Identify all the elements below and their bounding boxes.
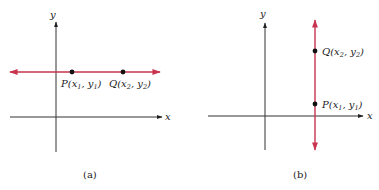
- caption-a: (a): [83, 169, 97, 180]
- y-axis-label: y: [49, 9, 56, 20]
- point-q: [313, 49, 318, 54]
- y-axis-label: y: [259, 8, 266, 19]
- point-p: [70, 70, 75, 75]
- x-axis-label: x: [367, 110, 373, 121]
- point-q: [121, 70, 126, 75]
- point-p-label: P(x1, y1): [321, 99, 363, 112]
- point-q-label: Q(x2, y2): [109, 78, 151, 91]
- point-q-label: Q(x2, y2): [322, 46, 364, 59]
- caption-b: (b): [293, 169, 307, 180]
- panel-b: y x Q(x2, y2) P(x1, y1) (b): [208, 8, 373, 180]
- point-p: [313, 102, 318, 107]
- figure: y x P(x1, y1) Q(x2, y2) (a) y x Q(x2, y2…: [0, 0, 379, 190]
- panel-a: y x P(x1, y1) Q(x2, y2) (a): [10, 9, 171, 180]
- x-axis-label: x: [165, 111, 171, 122]
- point-p-label: P(x1, y1): [60, 78, 102, 91]
